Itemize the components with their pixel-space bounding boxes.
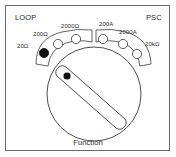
function-dial-graphic (6, 6, 176, 157)
corner-label-psc: PSC (146, 14, 162, 22)
range-label-200-ohm: 200Ω (33, 31, 48, 37)
range-label-200-a: 200A (99, 21, 113, 27)
pointer-indicator-dot (63, 72, 70, 79)
range-label-2000-ohm: 2000Ω (61, 23, 79, 29)
position-hole-20k-ohm[interactable] (132, 49, 141, 58)
position-hole-2000-a[interactable] (118, 39, 127, 48)
position-hole-200-ohm[interactable] (53, 39, 62, 48)
instrument-panel-frame: LOOP PSC 20Ω 200Ω 2000Ω 200A 2000A 20kΩ (5, 5, 170, 151)
corner-label-loop: LOOP (15, 14, 36, 22)
dial-caption: Function (0, 139, 176, 147)
position-hole-2000-ohm[interactable] (71, 34, 80, 43)
range-label-2000-a: 2000A (119, 29, 137, 35)
range-label-20k-ohm: 20kΩ (145, 41, 160, 47)
range-label-20-ohm: 20Ω (17, 43, 28, 49)
position-hole-200-a[interactable] (98, 34, 107, 43)
position-hole-20-ohm[interactable] (39, 48, 48, 57)
